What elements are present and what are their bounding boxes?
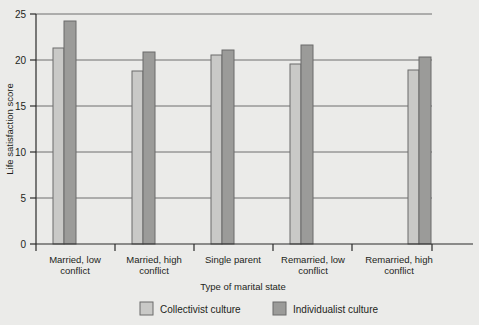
cat-label-3-line1: Single parent (205, 254, 261, 265)
x-axis-category-labels: Married, low conflict Married, high conf… (49, 254, 433, 276)
bar-group-married-high-conflict (132, 52, 155, 244)
bar-group-single-parent (211, 50, 234, 244)
cat-label-2-line2: conflict (139, 265, 169, 276)
bar-individualist-4 (301, 45, 313, 244)
cat-label-5-line1: Remarried, high (365, 254, 433, 265)
x-axis-title: Type of marital state (200, 281, 286, 292)
cat-label-5-line2: conflict (384, 265, 414, 276)
x-axis-ticks (36, 244, 432, 251)
cat-label-1-line2: conflict (60, 265, 90, 276)
legend-label-collectivist: Collectivist culture (160, 304, 241, 315)
cat-label-2-line1: Married, high (126, 254, 181, 265)
y-axis-ticks (30, 14, 36, 244)
bar-collectivist-3 (211, 55, 222, 244)
bar-collectivist-5 (408, 70, 419, 244)
bar-group-married-low-conflict (53, 21, 76, 244)
ytick-label-5: 5 (20, 193, 26, 204)
cat-label-4-line1: Remarried, low (281, 254, 345, 265)
y-axis-title: Life satisfaction score (4, 83, 15, 174)
bar-collectivist-2 (132, 71, 143, 244)
bar-group-remarried-low-conflict (290, 45, 313, 244)
chart-legend: Collectivist culture Individualist cultu… (140, 302, 378, 315)
bar-individualist-1 (64, 21, 76, 244)
bar-individualist-5 (419, 57, 431, 244)
cat-label-4-line2: conflict (298, 265, 328, 276)
bar-collectivist-1 (53, 48, 64, 244)
chart-canvas: 25 20 15 10 5 0 Married, low conflict Ma… (0, 0, 479, 325)
ytick-label-20: 20 (15, 55, 27, 66)
ytick-label-25: 25 (15, 9, 27, 20)
bar-individualist-3 (222, 50, 234, 244)
bar-individualist-2 (143, 52, 155, 244)
ytick-label-0: 0 (20, 239, 26, 250)
bar-group-remarried-high-conflict (408, 57, 431, 244)
legend-swatch-collectivist (140, 302, 153, 315)
ytick-label-10: 10 (15, 147, 27, 158)
legend-label-individualist: Individualist culture (293, 304, 378, 315)
bar-collectivist-4 (290, 64, 301, 244)
bar-chart: 25 20 15 10 5 0 Married, low conflict Ma… (0, 0, 479, 325)
cat-label-1-line1: Married, low (49, 254, 101, 265)
ytick-label-15: 15 (15, 101, 27, 112)
legend-swatch-individualist (273, 302, 286, 315)
